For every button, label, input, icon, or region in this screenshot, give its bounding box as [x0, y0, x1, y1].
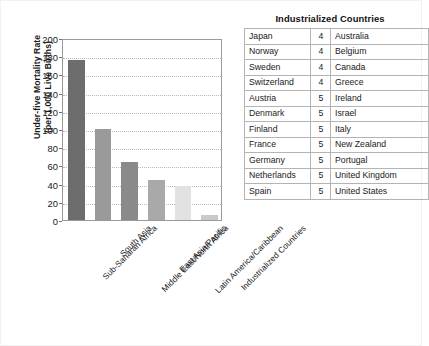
table-row: Austria5Ireland [245, 91, 429, 107]
cell-rate: 5 [311, 91, 331, 107]
table-row: Switzerland4Greece [245, 75, 429, 91]
cell-rate: 4 [311, 75, 331, 91]
bar-chart: Under-five Mortality Rate (per 1,000 Liv… [9, 11, 234, 341]
cell-country-left: Japan [245, 29, 311, 45]
cell-country-right: Israel [331, 106, 429, 122]
bar [121, 162, 138, 220]
gridline [63, 204, 221, 205]
cell-rate: 5 [311, 168, 331, 184]
y-axis-tick-label: 160 [12, 70, 58, 81]
gridline [63, 186, 221, 187]
cell-country-left: Germany [245, 153, 311, 169]
cell-country-right: United States [331, 184, 429, 200]
cell-rate: 4 [311, 44, 331, 60]
cell-country-right: Italy [331, 122, 429, 138]
industrialized-countries-table-panel: Industrialized Countries Japan4Australia… [244, 13, 416, 200]
cell-country-right: Belgium [331, 44, 429, 60]
bar [175, 186, 192, 220]
cell-country-left: Switzerland [245, 75, 311, 91]
bar [148, 180, 165, 220]
y-axis-tick-label: 200 [12, 34, 58, 45]
cell-country-left: Austria [245, 91, 311, 107]
gridline [63, 131, 221, 132]
cell-country-right: Canada [331, 60, 429, 76]
cell-rate: 5 [311, 137, 331, 153]
cell-country-right: United Kingdom [331, 168, 429, 184]
y-axis-tick-label: 60 [12, 161, 58, 172]
table-row: Japan4Australia [245, 29, 429, 45]
gridline [63, 58, 221, 59]
x-axis-tick-labels: Sub-Saharan AfricaSouth AsiaMiddle East/… [62, 221, 292, 341]
gridline [63, 167, 221, 168]
cell-rate: 4 [311, 29, 331, 45]
bar [201, 215, 218, 220]
cell-rate: 5 [311, 122, 331, 138]
gridline [63, 95, 221, 96]
plot-area [62, 39, 222, 221]
cell-rate: 5 [311, 184, 331, 200]
cell-country-left: Norway [245, 44, 311, 60]
plot-wrapper [62, 39, 222, 221]
cell-country-left: Finland [245, 122, 311, 138]
y-axis-tick-label: 80 [12, 143, 58, 154]
industrialized-countries-table: Japan4AustraliaNorway4BelgiumSweden4Cana… [244, 28, 429, 200]
table-row: Finland5Italy [245, 122, 429, 138]
gridline [63, 149, 221, 150]
x-axis-tick-label: East Asia/Pacific [178, 223, 229, 274]
table-row: Sweden4Canada [245, 60, 429, 76]
cell-country-right: New Zealand [331, 137, 429, 153]
table-row: Germany5Portugal [245, 153, 429, 169]
y-axis-tick-label: 100 [12, 125, 58, 136]
cell-country-right: Ireland [331, 91, 429, 107]
gridline [63, 76, 221, 77]
table-row: Netherlands5United Kingdom [245, 168, 429, 184]
cell-country-left: France [245, 137, 311, 153]
table-row: Spain5United States [245, 184, 429, 200]
cell-rate: 5 [311, 153, 331, 169]
table-body: Japan4AustraliaNorway4BelgiumSweden4Cana… [245, 29, 429, 200]
table-row: Norway4Belgium [245, 44, 429, 60]
table-row: France5New Zealand [245, 137, 429, 153]
cell-rate: 4 [311, 60, 331, 76]
cell-country-left: Netherlands [245, 168, 311, 184]
table-row: Denmark5Israel [245, 106, 429, 122]
cell-rate: 5 [311, 106, 331, 122]
bar [68, 60, 85, 220]
gridline [63, 113, 221, 114]
y-axis-tick-label: 20 [12, 197, 58, 208]
y-axis-tick-label: 0 [12, 216, 58, 227]
cell-country-left: Spain [245, 184, 311, 200]
y-axis-tick-labels: 020406080100120140160180200 [9, 39, 58, 221]
cell-country-right: Greece [331, 75, 429, 91]
y-axis-tick-label: 140 [12, 88, 58, 99]
bar [95, 129, 112, 220]
cell-country-left: Sweden [245, 60, 311, 76]
table-title: Industrialized Countries [244, 13, 416, 24]
y-axis-tick-label: 180 [12, 52, 58, 63]
y-axis-tick-label: 40 [12, 179, 58, 190]
cell-country-left: Denmark [245, 106, 311, 122]
y-axis-tick-label: 120 [12, 106, 58, 117]
cell-country-right: Australia [331, 29, 429, 45]
cell-country-right: Portugal [331, 153, 429, 169]
